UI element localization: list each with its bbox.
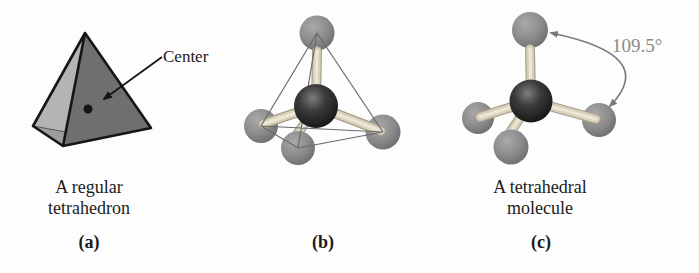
- caption-c: A tetrahedral molecule: [484, 177, 596, 219]
- tag-a: (a): [59, 232, 119, 253]
- ball-stick-model: [244, 16, 401, 166]
- central-atom-sphere: [294, 84, 338, 128]
- figure-tetrahedron-panel: Center 109.5° A regular tetrahedron (a) …: [0, 0, 699, 273]
- central-atom-sphere: [510, 80, 553, 123]
- tag-b: (b): [293, 232, 353, 253]
- bond-angle-label: 109.5°: [612, 35, 662, 56]
- molecule-model: [462, 12, 626, 165]
- atom-sphere-top: [512, 12, 548, 48]
- atom-sphere-front: [494, 130, 529, 165]
- tetrahedron-illustration: [33, 33, 162, 146]
- center-annotation: Center: [163, 47, 208, 67]
- caption-a: A regular tetrahedron: [36, 177, 142, 219]
- tag-c: (c): [511, 232, 571, 253]
- center-dot: [84, 105, 93, 114]
